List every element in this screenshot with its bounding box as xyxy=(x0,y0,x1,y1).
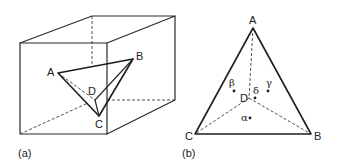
vertex-label-C: C xyxy=(185,130,193,142)
phase-point-delta xyxy=(254,97,257,100)
phase-point-gamma xyxy=(267,90,270,93)
phase-point-beta xyxy=(233,90,236,93)
vertex-label-D: D xyxy=(88,85,96,97)
phase-label-alpha: α xyxy=(241,112,248,123)
vertex-label-B: B xyxy=(314,130,321,142)
vertex-label-A: A xyxy=(249,14,257,26)
phase-label-gamma: γ xyxy=(266,77,272,88)
figure: A B C D (a) A B C D β δ γ α (b) xyxy=(0,0,337,164)
cube-right-face xyxy=(107,16,175,134)
cube-hidden-edge-diagonal xyxy=(20,103,88,134)
phase-label-delta: δ xyxy=(253,85,259,96)
panel-a: A B C D (a) xyxy=(18,16,175,159)
phase-label-beta: β xyxy=(229,77,235,88)
caption-b: (b) xyxy=(182,147,195,159)
triangle-ABC xyxy=(195,28,311,134)
vertex-label-D: D xyxy=(240,92,248,104)
cube-top-face xyxy=(20,16,175,43)
panel-b: A B C D β δ γ α (b) xyxy=(182,14,321,159)
phase-point-alpha xyxy=(249,117,252,120)
vertex-label-C: C xyxy=(95,118,103,130)
caption-a: (a) xyxy=(18,147,31,159)
vertex-label-A: A xyxy=(47,66,55,78)
vertex-label-B: B xyxy=(136,50,143,62)
